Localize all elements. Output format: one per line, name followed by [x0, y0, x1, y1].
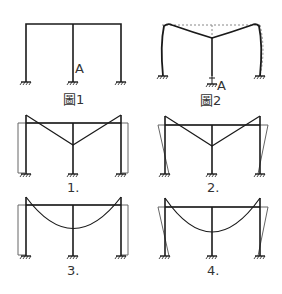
figure-1-point-label: A	[75, 62, 84, 75]
option-1-diagram	[18, 115, 128, 177]
fixed-support-icon	[115, 82, 126, 85]
fixed-support-icon	[67, 82, 78, 85]
option-2-label: 2.	[207, 181, 219, 194]
option-4-label: 4.	[207, 264, 219, 277]
figure-2-point-label: A	[217, 79, 226, 92]
option-2-diagram	[158, 116, 268, 177]
figure-1-frame	[20, 24, 126, 85]
figure-2-caption: 圖2	[200, 94, 221, 107]
figure-2-frame	[157, 24, 265, 87]
fixed-support-icon	[20, 82, 31, 85]
fixed-support-icon	[206, 84, 217, 87]
diagram-canvas	[0, 0, 282, 294]
fixed-support-icon	[157, 76, 168, 79]
option-3-label: 3.	[67, 264, 79, 277]
option-4-diagram	[158, 198, 268, 259]
figure-1-caption: 圖1	[63, 93, 84, 106]
fixed-support-icon	[254, 76, 265, 79]
option-3-diagram	[18, 197, 128, 259]
option-1-label: 1.	[67, 181, 79, 194]
